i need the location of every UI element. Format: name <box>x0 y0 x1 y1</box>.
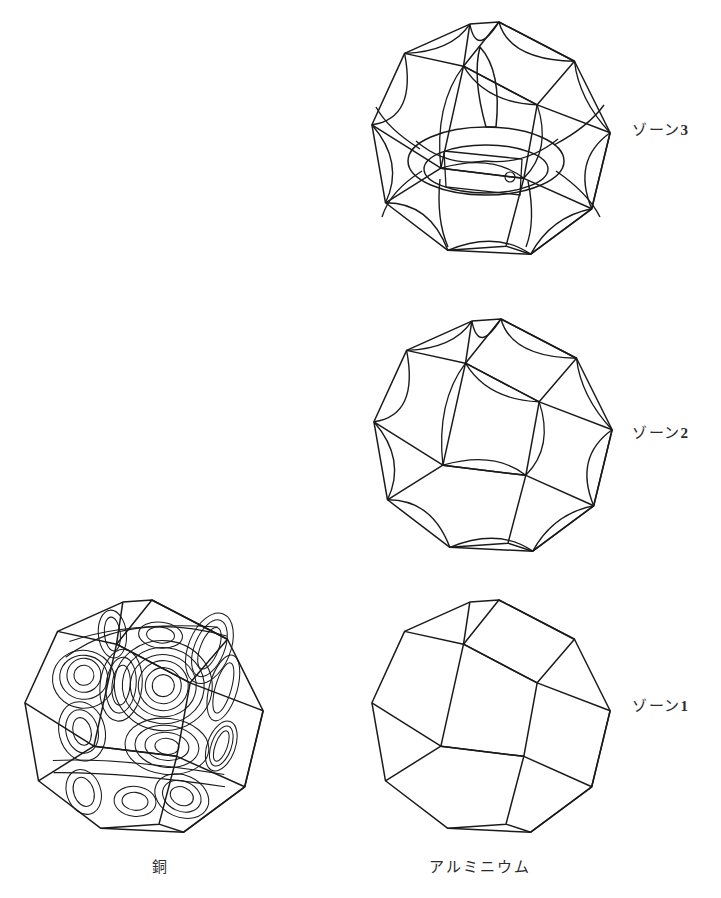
zone-label-2: ゾーン2 <box>632 421 688 442</box>
zone-label-3-number: 3 <box>681 122 689 138</box>
zone-label-3-text: ゾーン <box>632 122 681 138</box>
caption-aluminum: アルミニウム <box>365 855 595 876</box>
zone-label-3: ゾーン3 <box>632 118 688 139</box>
zone-label-1: ゾーン1 <box>632 694 688 715</box>
brillouin-zone-figure <box>0 0 721 898</box>
zone-label-1-text: ゾーン <box>632 698 681 714</box>
zone-label-2-text: ゾーン <box>632 425 681 441</box>
zone2-polyhedron-frame <box>344 291 639 585</box>
panel-zone2 <box>344 291 639 585</box>
copper-fermi-contours <box>38 591 255 836</box>
figure-root: ゾーン3 ゾーン2 ゾーン1 銅 アルミニウム <box>0 0 721 898</box>
zone2-face-arcs <box>344 291 639 585</box>
zone-label-2-number: 2 <box>681 425 689 441</box>
zone-label-1-number: 1 <box>681 698 689 714</box>
zone3-inner-fermi-surface <box>376 47 604 247</box>
zone1-polyhedron-frame <box>342 572 637 866</box>
panel-zone1 <box>342 572 637 866</box>
caption-copper: 銅 <box>80 855 240 876</box>
